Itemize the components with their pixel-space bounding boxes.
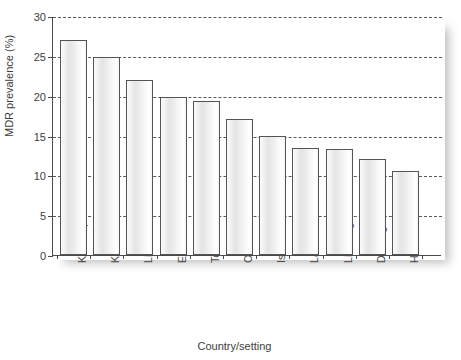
bar [160, 97, 187, 255]
x-axis-tick [190, 255, 191, 259]
y-axis-tick-label: 0 [40, 251, 46, 262]
y-axis-tick [48, 17, 53, 18]
y-axis-tick-label: 20 [34, 91, 46, 102]
x-axis-tick [389, 255, 390, 259]
bar [60, 40, 87, 255]
bar [259, 136, 286, 256]
gridline [53, 17, 442, 18]
y-axis-tick [48, 256, 53, 257]
y-axis-tick-label: 10 [34, 171, 46, 182]
x-axis-tick [422, 255, 423, 259]
x-axis-tick [356, 255, 357, 259]
y-axis-tick [48, 176, 53, 177]
y-axis-tick-label: 15 [34, 131, 46, 142]
y-axis-tick-label: 30 [34, 12, 46, 23]
y-axis-tick [48, 216, 53, 217]
x-axis-tick [90, 255, 91, 259]
x-axis-tick [157, 255, 158, 259]
y-axis-tick-label: 5 [40, 211, 46, 222]
x-axis-tick [223, 255, 224, 259]
y-axis-tick [48, 137, 53, 138]
x-axis-title-text: Country/setting [198, 340, 272, 352]
x-axis-title: Country/setting [0, 340, 461, 352]
x-axis-tick [323, 255, 324, 259]
y-axis-tick [48, 97, 53, 98]
bar [226, 119, 253, 255]
x-axis-tick [256, 255, 257, 259]
bar [126, 80, 153, 255]
x-axis-tick [57, 255, 58, 259]
plot-area: 051015202530 [52, 17, 441, 256]
bar [193, 101, 220, 255]
y-axis-tick-label: 25 [34, 51, 46, 62]
bar [359, 159, 386, 255]
bar [392, 171, 419, 255]
bar [292, 148, 319, 255]
y-axis-tick [48, 57, 53, 58]
y-axis-title: MDR prevalence (%) [4, 35, 15, 137]
bar-chart-figure: 051015202530 MDR prevalence (%) Country/… [0, 0, 461, 360]
x-axis-tick [123, 255, 124, 259]
x-axis-tick [289, 255, 290, 259]
bar [93, 57, 120, 255]
bar [326, 149, 353, 255]
